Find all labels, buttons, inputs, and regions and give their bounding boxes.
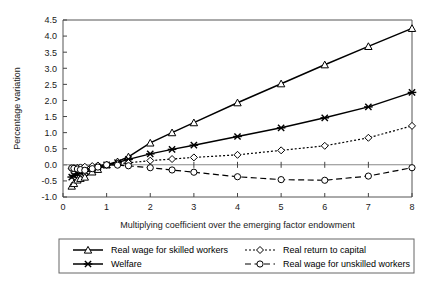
x-tick-label: 8 bbox=[409, 202, 414, 212]
marker-x bbox=[233, 133, 242, 139]
y-axis-title: Percentage variation bbox=[12, 67, 22, 150]
legend-label: Real return to capital bbox=[283, 245, 366, 255]
y-tick-label: 0.0 bbox=[44, 160, 57, 170]
marker-circle bbox=[95, 164, 101, 170]
marker-circle bbox=[322, 177, 328, 183]
legend-item[interactable]: Welfare bbox=[73, 259, 142, 269]
marker-circle bbox=[234, 174, 240, 180]
y-tick-label: -1.0 bbox=[41, 192, 57, 202]
x-tick-label: 2 bbox=[148, 202, 153, 212]
series-line bbox=[72, 28, 412, 186]
marker-diamond bbox=[409, 122, 416, 129]
marker-circle bbox=[191, 169, 197, 175]
marker-circle bbox=[257, 261, 263, 267]
marker-circle bbox=[125, 163, 131, 169]
legend: Real wage for skilled workersReal return… bbox=[59, 239, 414, 273]
marker-diamond bbox=[321, 142, 328, 149]
legend-label: Real wage for skilled workers bbox=[111, 245, 229, 255]
marker-circle bbox=[82, 167, 88, 173]
marker-diamond bbox=[365, 134, 372, 141]
marker-x bbox=[364, 104, 373, 110]
marker-circle bbox=[147, 165, 153, 171]
x-tick-label: 4 bbox=[235, 202, 240, 212]
y-tick-label: 4.5 bbox=[44, 15, 57, 25]
line-chart: -1.0-0.50.00.51.01.52.02.53.03.54.04.5Pe… bbox=[0, 0, 439, 284]
x-tick-label: 5 bbox=[279, 202, 284, 212]
marker-diamond bbox=[147, 157, 154, 164]
y-axis: -1.0-0.50.00.51.01.52.02.53.03.54.04.5Pe… bbox=[12, 15, 67, 202]
x-tick-label: 7 bbox=[366, 202, 371, 212]
marker-triangle bbox=[168, 129, 175, 136]
chart-figure: -1.0-0.50.00.51.01.52.02.53.03.54.04.5Pe… bbox=[0, 0, 439, 284]
y-tick-label: 0.5 bbox=[44, 144, 57, 154]
marker-x bbox=[190, 142, 199, 148]
x-tick-label: 1 bbox=[104, 202, 109, 212]
x-tick-label: 6 bbox=[322, 202, 327, 212]
marker-triangle bbox=[147, 139, 154, 146]
marker-diamond bbox=[190, 154, 197, 161]
marker-diamond bbox=[169, 156, 176, 163]
marker-x bbox=[84, 261, 93, 267]
marker-diamond bbox=[278, 147, 285, 154]
y-tick-label: 1.5 bbox=[44, 112, 57, 122]
marker-circle bbox=[114, 162, 120, 168]
marker-circle bbox=[104, 162, 110, 168]
y-tick-label: 1.0 bbox=[44, 128, 57, 138]
marker-x bbox=[146, 151, 155, 157]
y-tick-label: 3.5 bbox=[44, 48, 57, 58]
marker-circle bbox=[365, 173, 371, 179]
series-line bbox=[72, 165, 412, 180]
marker-diamond bbox=[257, 247, 264, 254]
marker-triangle bbox=[365, 43, 372, 50]
y-tick-label: 4.0 bbox=[44, 31, 57, 41]
x-tick-label: 3 bbox=[191, 202, 196, 212]
marker-triangle bbox=[190, 119, 197, 126]
marker-circle bbox=[409, 165, 415, 171]
legend-item[interactable]: Real return to capital bbox=[245, 245, 366, 255]
marker-circle bbox=[278, 177, 284, 183]
x-axis: 012345678Multiplying coefficient over th… bbox=[60, 193, 414, 230]
y-tick-label: 2.0 bbox=[44, 96, 57, 106]
marker-circle bbox=[169, 167, 175, 173]
series-line bbox=[72, 126, 412, 169]
marker-triangle bbox=[321, 61, 328, 68]
marker-x bbox=[320, 115, 329, 121]
y-tick-label: -0.5 bbox=[41, 176, 57, 186]
legend-item[interactable]: Real wage for unskilled workers bbox=[245, 259, 411, 269]
y-tick-label: 2.5 bbox=[44, 80, 57, 90]
marker-diamond bbox=[234, 151, 241, 158]
legend-label: Welfare bbox=[111, 259, 142, 269]
marker-triangle bbox=[408, 25, 415, 32]
y-tick-label: 3.0 bbox=[44, 64, 57, 74]
x-tick-label: 0 bbox=[60, 202, 65, 212]
legend-label: Real wage for unskilled workers bbox=[283, 259, 411, 269]
marker-x bbox=[168, 146, 177, 152]
marker-triangle bbox=[277, 80, 284, 87]
legend-item[interactable]: Real wage for skilled workers bbox=[73, 245, 229, 255]
marker-triangle bbox=[234, 99, 241, 106]
marker-x bbox=[277, 125, 286, 131]
x-axis-title: Multiplying coefficient over the emergin… bbox=[120, 220, 355, 230]
